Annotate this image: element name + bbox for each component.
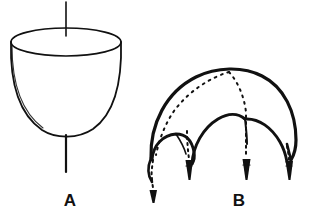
tentacle-1-dash-upper xyxy=(152,160,153,178)
figure-root: A xyxy=(0,0,309,219)
tentacle-1-dash-lower xyxy=(152,179,153,189)
panel-a-label: A xyxy=(64,191,76,210)
dotted-contour-left xyxy=(156,72,229,155)
panel-b-outer-arch xyxy=(151,69,296,160)
figure-canvas: A xyxy=(0,0,309,219)
panel-a-group: A xyxy=(11,2,121,210)
tentacle-3-arrowhead xyxy=(243,159,251,180)
panel-b-inner-arch-center xyxy=(192,115,245,165)
panel-b-group: B xyxy=(148,69,296,210)
tentacle-2-dash xyxy=(187,131,189,159)
panel-b-label: B xyxy=(233,191,245,210)
panel-b-inner-arch-right xyxy=(245,119,287,162)
tentacle-4-arrowhead xyxy=(286,161,294,180)
tentacle-1-arrowhead xyxy=(150,190,158,203)
tentacle-2-arrowhead xyxy=(186,160,194,180)
